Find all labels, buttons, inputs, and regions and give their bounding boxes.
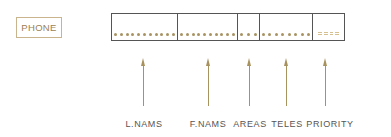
field-label-areas: AREAS <box>233 119 267 129</box>
fnams-dots <box>180 32 235 36</box>
record-layout <box>111 13 345 41</box>
field-teles <box>260 14 313 40</box>
areas-dots <box>240 32 257 36</box>
field-label-lnams: L.NAMS <box>125 119 162 129</box>
record-name-label: PHONE <box>21 22 56 33</box>
record-name-box: PHONE <box>16 17 62 38</box>
priority-dashes <box>318 32 339 35</box>
field-label-priority: PRIORITY <box>306 119 353 129</box>
field-priority <box>313 14 344 40</box>
field-lnams <box>112 14 178 40</box>
field-areas <box>238 14 260 40</box>
field-label-fnams: F.NAMS <box>190 119 227 129</box>
teles-dots <box>262 32 310 36</box>
field-label-teles: TELES <box>271 119 303 129</box>
field-fnams <box>178 14 238 40</box>
lnams-dots <box>114 32 175 36</box>
